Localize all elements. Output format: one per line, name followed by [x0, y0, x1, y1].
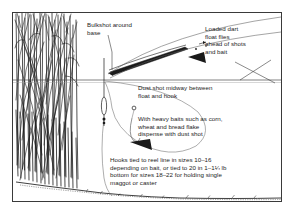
callout-loaded-dart-float: Loaded dart float flies ahead of shots a… — [205, 25, 277, 55]
callout-heavy-baits: With heavy baits such as corn, wheat and… — [138, 115, 270, 138]
callout-dust-shot: Dust shot midway between float and hook — [138, 84, 268, 99]
dart-float-in-flight — [108, 45, 188, 76]
callout-bulkshot: Bulkshot around base — [87, 21, 161, 36]
dart-float-in-water — [101, 58, 106, 126]
dust-shot — [132, 106, 136, 118]
callout-hook-sizes: Hooks tied to reel line in sizes 10–16 d… — [110, 156, 272, 186]
figure-page: Bulkshot around base Loaded dart float f… — [0, 0, 294, 216]
reed-bed — [15, 13, 79, 188]
